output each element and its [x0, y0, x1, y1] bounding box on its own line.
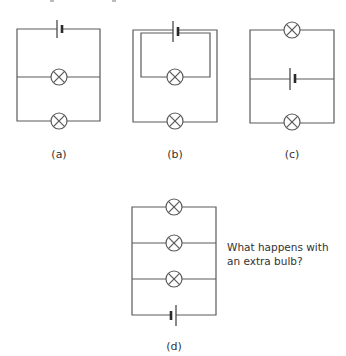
- bulb-icon: [166, 199, 182, 215]
- circuit-b: [133, 21, 217, 129]
- question-line-1: What happens with: [227, 240, 329, 254]
- bulb-icon: [166, 235, 182, 251]
- battery-icon: [290, 68, 295, 90]
- bulb-icon: [167, 113, 183, 129]
- battery-icon: [171, 305, 176, 326]
- battery-icon: [57, 20, 62, 38]
- circuit-diagrams: [0, 0, 346, 356]
- circuit-a-label: (a): [51, 148, 66, 161]
- bulb-icon: [167, 69, 183, 85]
- circuit-d: [132, 199, 216, 326]
- circuit-c: [250, 22, 334, 130]
- circuit-c-label: (c): [285, 148, 300, 161]
- circuit-d-label: (d): [166, 340, 182, 353]
- circuit-b-label: (b): [167, 148, 183, 161]
- bulb-icon: [51, 113, 67, 129]
- circuit-a: [17, 20, 100, 129]
- bulb-icon: [284, 22, 300, 38]
- bulb-icon: [166, 271, 182, 287]
- bulb-icon: [51, 69, 67, 85]
- bulb-icon: [284, 114, 300, 130]
- question-line-2: an extra bulb?: [227, 254, 329, 268]
- battery-icon: [173, 21, 178, 42]
- question-text: What happens with an extra bulb?: [227, 240, 329, 268]
